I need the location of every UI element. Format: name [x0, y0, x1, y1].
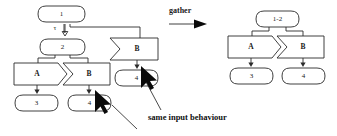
edge-action-a-to-state3 — [34, 85, 39, 94]
action-node-b-top: B — [110, 38, 158, 60]
state-node-1: 1 — [38, 6, 85, 22]
edge-action-b-bottom-to-state4b — [86, 85, 91, 94]
action-node-a-right: A — [228, 36, 281, 58]
action-node-b-bottom: B — [63, 63, 110, 85]
gather-arrow-icon — [169, 20, 207, 29]
state-node-4a-label: 4 — [135, 74, 139, 82]
fork-state12-to-actions — [252, 27, 303, 36]
edge-a-right-to-state3 — [248, 58, 253, 67]
gather-label: gather — [169, 6, 192, 15]
state-node-12-label: 1-2 — [273, 15, 283, 23]
state-node-2: 2 — [40, 39, 85, 55]
state-node-3-right: 3 — [230, 68, 273, 84]
edge-state1-to-state2 — [62, 24, 68, 36]
state-node-4b-label: 4 — [88, 99, 92, 107]
state-node-4-right-label: 4 — [302, 72, 306, 80]
action-node-a-right-label: A — [248, 42, 254, 51]
edge-action-b-top-to-state4a — [134, 60, 139, 69]
state-node-4-right: 4 — [282, 68, 325, 84]
gather-operator: gather — [169, 6, 207, 29]
state-node-3-right-label: 3 — [250, 72, 254, 80]
state-node-3: 3 — [15, 95, 58, 111]
tau-label: τ — [54, 24, 57, 32]
action-node-b-top-label: B — [134, 44, 139, 53]
state-node-3-label: 3 — [35, 99, 39, 107]
diagram-canvas: τ 1 2 B — [0, 0, 337, 136]
state-node-2-label: 2 — [61, 43, 65, 51]
gather-transformation-figure: τ 1 2 B — [0, 0, 337, 136]
action-node-a: A — [14, 63, 67, 85]
right-graph: 1-2 A B 3 — [228, 11, 325, 84]
same-input-behaviour-caption: same input behaviour — [148, 112, 227, 122]
state-node-1-label: 1 — [60, 10, 64, 18]
left-graph: τ 1 2 B — [14, 6, 158, 111]
action-node-b-bottom-label: B — [86, 69, 91, 78]
action-node-b-right-label: B — [300, 42, 305, 51]
fork-state2-to-actions — [38, 55, 88, 63]
edge-b-right-to-state4 — [300, 58, 305, 67]
edge-state1-to-action-b-top — [70, 24, 140, 38]
state-node-12: 1-2 — [256, 11, 299, 27]
action-node-a-label: A — [34, 69, 40, 78]
action-node-b-right: B — [277, 36, 324, 58]
